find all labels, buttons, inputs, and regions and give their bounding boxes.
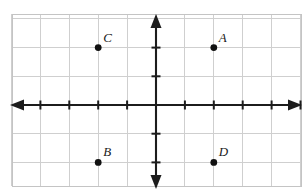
y-axis-up-arrow-icon	[151, 14, 162, 28]
coordinate-plane-figure: ABCD	[0, 0, 306, 193]
point-label-d: D	[218, 144, 229, 159]
coordinate-plane-svg: ABCD	[0, 0, 306, 193]
point-label-a: A	[218, 30, 227, 45]
y-axis-down-arrow-icon	[151, 175, 162, 189]
plotted-point-c	[95, 44, 102, 51]
plotted-point-a	[210, 44, 217, 51]
point-label-c: C	[103, 30, 112, 45]
point-label-b: B	[103, 144, 111, 159]
plotted-point-d	[210, 159, 217, 166]
plotted-points-layer: ABCD	[95, 30, 229, 166]
plotted-point-b	[95, 159, 102, 166]
